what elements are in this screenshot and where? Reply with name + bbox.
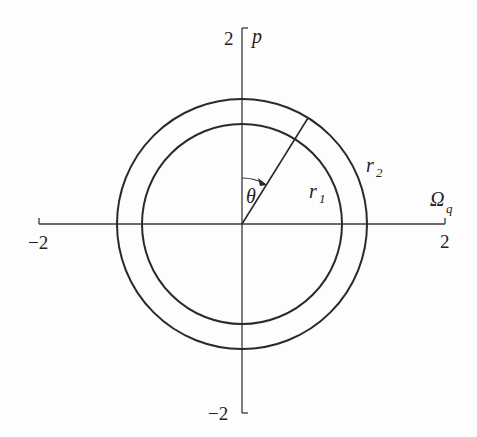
svg-text:1: 1 (319, 191, 326, 206)
x-axis-label: Ω q (430, 188, 453, 216)
svg-text:Ω: Ω (430, 188, 444, 210)
phase-space-diagram: 2 p −2 −2 2 Ω q r 1 r 2 θ (0, 0, 477, 437)
y-min-label: −2 (208, 403, 228, 424)
y-max-label: 2 (224, 28, 234, 49)
svg-text:r: r (309, 180, 317, 202)
theta-label: θ (246, 185, 256, 207)
svg-text:q: q (446, 201, 453, 216)
x-min-label: −2 (28, 232, 48, 253)
svg-text:2: 2 (376, 165, 383, 180)
x-max-label: 2 (440, 231, 450, 252)
r1-label: r 1 (309, 180, 326, 206)
svg-text:r: r (366, 154, 374, 176)
arrowhead-icon (258, 178, 267, 186)
y-axis-label: p (250, 25, 262, 48)
radial-line (242, 118, 308, 224)
r2-label: r 2 (366, 154, 383, 180)
